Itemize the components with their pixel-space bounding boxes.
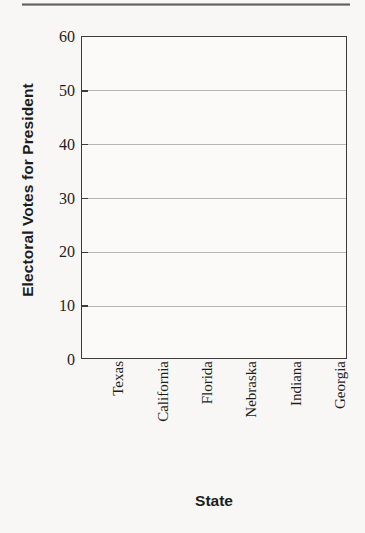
x-axis-tick-label: Georgia	[332, 361, 347, 409]
x-axis-tick-label: Florida	[199, 361, 214, 404]
y-axis-tick-label: 60	[59, 28, 75, 46]
bars-layer	[82, 37, 346, 358]
x-axis-tick-labels-group: TexasCaliforniaFloridaNebraskaIndianaGeo…	[81, 361, 347, 471]
page-edge-rule	[22, 3, 350, 6]
y-axis-title: Electoral Votes for President	[19, 83, 37, 297]
x-axis-title: State	[81, 492, 347, 510]
plot-area: 0102030405060	[81, 36, 347, 359]
x-axis-tick-label: Texas	[111, 361, 126, 396]
y-axis-tick-label: 30	[59, 190, 75, 208]
y-axis-tick-label: 20	[59, 243, 75, 261]
y-axis-tick-label: 50	[59, 82, 75, 100]
y-axis-tick-label: 10	[59, 297, 75, 315]
y-axis-tick-label: 40	[59, 136, 75, 154]
x-axis-tick-label: Nebraska	[244, 361, 259, 418]
bar-chart-figure: Electoral Votes for President 0102030405…	[0, 0, 365, 533]
x-axis-tick-label: California	[155, 361, 170, 422]
x-axis-tick-label: Indiana	[288, 361, 303, 406]
y-axis-tick-label: 0	[67, 351, 75, 369]
